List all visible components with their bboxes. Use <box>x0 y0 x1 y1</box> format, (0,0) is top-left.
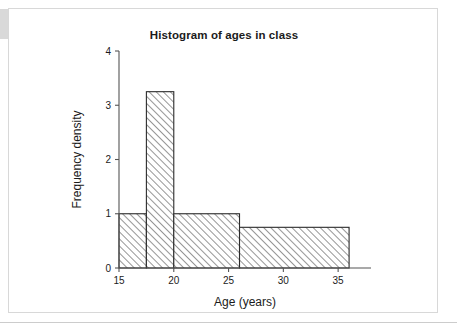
histogram-bar <box>146 92 173 268</box>
y-tick-labels: 01234 <box>105 46 119 274</box>
histogram-bar <box>240 227 350 268</box>
bottom-divider <box>0 322 457 323</box>
x-tick-label: 15 <box>113 275 125 286</box>
figure-card: Histogram of ages in class 01234 1520253… <box>8 8 438 313</box>
histogram-plot: 01234 1520253035 Age (years) Frequency d… <box>9 9 439 314</box>
x-tick-labels: 1520253035 <box>113 268 344 286</box>
x-tick-label: 20 <box>168 275 180 286</box>
y-tick-label: 0 <box>105 263 111 274</box>
histogram-bar <box>119 214 146 268</box>
x-tick-label: 35 <box>333 275 345 286</box>
y-axis-title: Frequency density <box>70 110 84 208</box>
clipped-top-text <box>0 0 457 7</box>
y-tick-label: 3 <box>105 100 111 111</box>
y-tick-label: 4 <box>105 46 111 57</box>
bars-group <box>119 92 349 268</box>
y-tick-label: 1 <box>105 208 111 219</box>
y-tick-label: 2 <box>105 154 111 165</box>
x-axis-title: Age (years) <box>214 295 276 309</box>
histogram-bar <box>174 214 240 268</box>
x-tick-label: 25 <box>223 275 235 286</box>
x-tick-label: 30 <box>278 275 290 286</box>
